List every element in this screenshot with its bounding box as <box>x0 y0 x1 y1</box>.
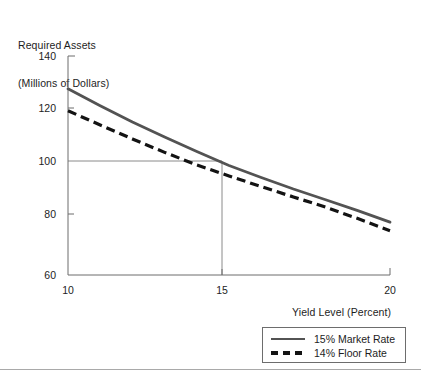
y-tick-label-140: 140 <box>26 50 56 62</box>
y-tick-label-100: 100 <box>26 155 56 167</box>
y-tick-label-120: 120 <box>26 102 56 114</box>
y-tick-label-60: 60 <box>26 269 56 281</box>
x-tick-label-10: 10 <box>53 284 83 296</box>
legend-item-floor-rate: 14% Floor Rate <box>271 345 387 360</box>
dashed-line-swatch-icon <box>271 348 305 358</box>
series-line-market-rate <box>68 89 390 222</box>
footer-rule <box>0 369 421 370</box>
chart-figure: Required Assets (Millions of Dollars) 14… <box>0 0 421 378</box>
legend-label-floor-rate: 14% Floor Rate <box>314 347 387 359</box>
solid-line-swatch-icon <box>271 334 305 344</box>
x-axis-title: Yield Level (Percent) <box>292 306 391 319</box>
x-tick-label-20: 20 <box>375 284 405 296</box>
chart-legend: 15% Market Rate 14% Floor Rate <box>262 327 406 363</box>
series-line-floor-rate <box>68 111 390 231</box>
legend-item-market-rate: 15% Market Rate <box>271 331 395 346</box>
legend-label-market-rate: 15% Market Rate <box>314 333 395 345</box>
y-tick-label-80: 80 <box>26 208 56 220</box>
x-tick-label-15: 15 <box>207 284 237 296</box>
plot-area <box>0 0 421 378</box>
